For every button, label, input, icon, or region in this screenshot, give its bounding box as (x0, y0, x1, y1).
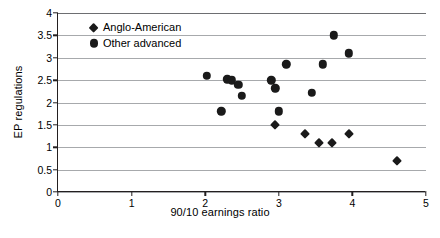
y-tick-label: 1.5 (37, 120, 58, 131)
data-point (282, 60, 290, 68)
circle-marker-icon (88, 36, 102, 52)
y-tick-label: 2 (46, 97, 58, 108)
x-axis-title: 90/10 earnings ratio (0, 206, 440, 218)
data-point (234, 80, 242, 88)
gridline (58, 125, 426, 126)
gridline (58, 192, 426, 193)
gridline (58, 170, 426, 171)
y-tick-label: 4 (46, 8, 58, 19)
data-point (308, 88, 316, 96)
data-point (344, 129, 354, 139)
data-point (238, 92, 246, 100)
y-tick-label: 2.5 (37, 75, 58, 86)
scatter-chart-figure: EP regulations 00.511.522.533.54 012345 … (0, 0, 440, 238)
diamond-marker-icon (88, 20, 102, 36)
gridline (58, 58, 426, 59)
y-tick-label: 3 (46, 53, 58, 64)
data-point (275, 107, 283, 115)
y-tick-label: 3.5 (37, 30, 58, 41)
y-tick-label: 0.5 (37, 164, 58, 175)
data-point (217, 107, 225, 115)
gridline (58, 13, 426, 14)
gridline (58, 103, 426, 104)
legend-label: Other advanced (102, 36, 181, 52)
data-point (299, 129, 309, 139)
chart-legend: Anglo-American Other advanced (88, 20, 181, 51)
data-point (391, 156, 401, 166)
data-point (319, 60, 327, 68)
gridline (58, 80, 426, 81)
data-point (345, 49, 353, 57)
data-point (330, 31, 338, 39)
data-point (271, 84, 279, 92)
legend-label: Anglo-American (102, 20, 181, 36)
legend-item-anglo-american: Anglo-American (88, 20, 181, 36)
gridline (58, 147, 426, 148)
data-point (270, 120, 280, 130)
data-point (202, 71, 210, 79)
legend-item-other-advanced: Other advanced (88, 36, 181, 52)
y-tick-label: 1 (46, 142, 58, 153)
y-axis-title: EP regulations (12, 37, 24, 167)
